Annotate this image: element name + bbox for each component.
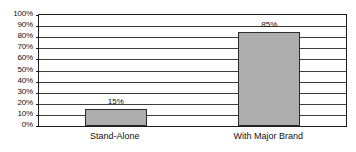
y-axis: 0%10%20%30%40%50%60%70%80%90%100%	[0, 14, 36, 127]
y-axis-tick-label: 100%	[13, 10, 33, 18]
y-axis-tick-label: 40%	[18, 77, 33, 85]
x-axis: Stand-AloneWith Major Brand	[38, 131, 347, 147]
y-axis-tick-label: 60%	[18, 54, 33, 62]
bar-value-label: 85%	[261, 21, 277, 29]
y-axis-tick-label: 30%	[18, 88, 33, 96]
y-axis-tick-label: 20%	[18, 99, 33, 107]
y-axis-tick-label: 50%	[18, 66, 33, 74]
x-axis-category-label: Stand-Alone	[90, 131, 140, 142]
y-axis-tick-mark	[36, 59, 39, 60]
y-axis-tick-mark	[36, 26, 39, 27]
y-axis-tick-label: 90%	[18, 21, 33, 29]
y-axis-tick-mark	[36, 115, 39, 116]
bar-chart: 0%10%20%30%40%50%60%70%80%90%100% 15%85%…	[0, 0, 356, 152]
y-axis-tick-mark	[36, 93, 39, 94]
bar	[85, 109, 147, 126]
gridline	[39, 26, 346, 27]
plot-area: 15%85%	[38, 14, 347, 127]
y-axis-tick-mark	[36, 71, 39, 72]
y-axis-tick-label: 10%	[18, 110, 33, 118]
y-axis-tick-mark	[36, 48, 39, 49]
y-axis-tick-label: 0%	[22, 121, 33, 129]
y-axis-tick-mark	[36, 37, 39, 38]
y-axis-tick-mark	[36, 82, 39, 83]
x-axis-category-label: With Major Brand	[233, 131, 303, 142]
bar-value-label: 15%	[108, 98, 124, 106]
y-axis-tick-mark	[36, 126, 39, 127]
y-axis-tick-label: 80%	[18, 32, 33, 40]
y-axis-tick-label: 70%	[18, 43, 33, 51]
y-axis-tick-mark	[36, 104, 39, 105]
bar	[238, 32, 300, 126]
y-axis-tick-mark	[36, 15, 39, 16]
